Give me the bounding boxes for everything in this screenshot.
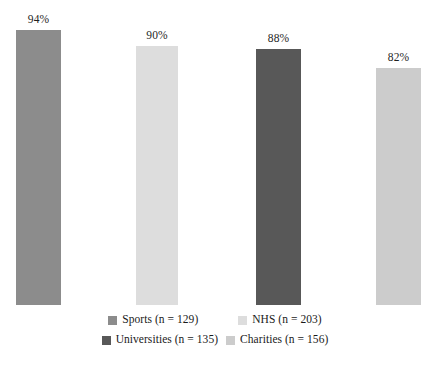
bar-group-nhs: 90% bbox=[136, 46, 178, 305]
legend-label-nhs: NHS (n = 203) bbox=[252, 314, 321, 326]
legend-label-universities: Universities (n = 135) bbox=[116, 334, 218, 346]
legend-swatch-charities-icon bbox=[226, 336, 235, 345]
chart-legend: Sports (n = 129) NHS (n = 203) Universit… bbox=[0, 310, 430, 362]
bar-universities[interactable] bbox=[256, 49, 301, 305]
legend-row-1: Sports (n = 129) NHS (n = 203) bbox=[108, 310, 321, 330]
legend-swatch-universities-icon bbox=[102, 336, 111, 345]
bar-chart: 94% 90% 88% 82% Sports (n = 129) NHS (n bbox=[0, 0, 430, 368]
bar-group-universities: 88% bbox=[256, 49, 301, 305]
legend-label-charities: Charities (n = 156) bbox=[240, 334, 328, 346]
bar-sports[interactable] bbox=[16, 30, 61, 305]
bar-charities[interactable] bbox=[376, 68, 421, 305]
bar-value-label-universities: 88% bbox=[268, 33, 289, 45]
legend-item-universities[interactable]: Universities (n = 135) bbox=[102, 334, 218, 346]
bar-group-charities: 82% bbox=[376, 68, 421, 305]
bar-value-label-charities: 82% bbox=[388, 52, 409, 64]
bar-value-label-nhs: 90% bbox=[146, 30, 167, 42]
legend-row-2: Universities (n = 135) Charities (n = 15… bbox=[102, 330, 329, 350]
plot-area: 94% 90% 88% 82% bbox=[0, 0, 430, 305]
bar-nhs[interactable] bbox=[136, 46, 178, 305]
bar-value-label-sports: 94% bbox=[28, 14, 49, 26]
legend-label-sports: Sports (n = 129) bbox=[122, 314, 198, 326]
legend-swatch-sports-icon bbox=[108, 316, 117, 325]
bar-group-sports: 94% bbox=[16, 30, 61, 305]
legend-swatch-nhs-icon bbox=[238, 316, 247, 325]
legend-item-charities[interactable]: Charities (n = 156) bbox=[226, 334, 328, 346]
legend-item-sports[interactable]: Sports (n = 129) bbox=[108, 314, 198, 326]
legend-item-nhs[interactable]: NHS (n = 203) bbox=[238, 314, 321, 326]
